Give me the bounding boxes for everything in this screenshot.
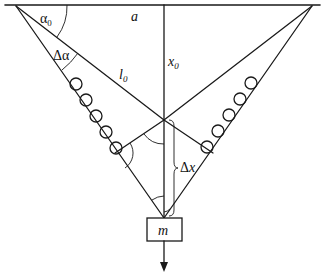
lower-junction-arc [152, 196, 164, 200]
l0-label: l0 [119, 67, 128, 84]
left-junction-arc [144, 134, 164, 144]
mass-label: m [158, 223, 168, 238]
left-equilibrium-line [16, 6, 164, 120]
delta-x-brace [169, 120, 178, 216]
right-perpendicular-line [164, 120, 213, 153]
right-displaced-line [164, 6, 312, 218]
alpha0-arc [57, 5, 67, 37]
left-displaced-line [16, 6, 164, 218]
delta-x-label: Δx [180, 160, 196, 175]
a-label: a [131, 9, 138, 24]
right-equilibrium-line [164, 6, 312, 120]
delta-alpha-label: Δα [53, 48, 70, 63]
right-spring-icon [201, 77, 257, 153]
x0-label: x0 [167, 54, 179, 71]
down-arrow-icon [160, 262, 168, 272]
alpha0-label: α0 [40, 11, 52, 28]
left-spring-icon [70, 78, 122, 154]
spring-mass-diagram: m α0 Δα a l0 x0 Δx [0, 0, 324, 274]
